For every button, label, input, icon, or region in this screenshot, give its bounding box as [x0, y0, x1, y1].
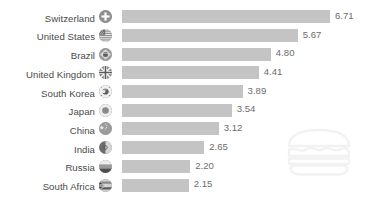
bar: [122, 48, 271, 61]
country-label: Russia: [65, 162, 95, 173]
bar: [122, 179, 189, 192]
bar-row: Japan3.54: [0, 101, 368, 120]
flag-china-icon: [99, 122, 112, 135]
flag-switzerland-icon: [99, 10, 112, 23]
country-label-wrap: South Korea: [0, 83, 98, 101]
country-label: United Kingdom: [26, 69, 95, 80]
bar-row: Russia2.20: [0, 157, 368, 176]
bar-zone: 6.71: [116, 7, 368, 26]
flag-india-icon: [99, 141, 112, 154]
bar-value-label: 3.54: [237, 104, 256, 114]
footnote: [17, 203, 217, 212]
bar-zone: 3.54: [116, 101, 368, 120]
bar-zone: 3.89: [116, 82, 368, 101]
bar: [122, 10, 330, 23]
bar-row: United States5.67: [0, 26, 368, 45]
country-label: South Africa: [43, 181, 95, 192]
country-label: United States: [37, 31, 95, 42]
bar-value-label: 4.80: [276, 48, 295, 58]
country-label-wrap: Switzerland: [0, 8, 98, 26]
bar-row: China3.12: [0, 120, 368, 139]
bar-value-label: 2.65: [209, 142, 228, 152]
bar-zone: 5.67: [116, 26, 368, 45]
bar-zone: 4.41: [116, 64, 368, 83]
country-label: India: [74, 144, 95, 155]
bar-row: Brazil4.80: [0, 45, 368, 64]
flag-united-states-icon: [99, 29, 112, 42]
flag-south-africa-icon: [99, 179, 112, 192]
bar: [122, 141, 204, 154]
bar: [122, 66, 259, 79]
bar-row: United Kingdom4.41: [0, 64, 368, 83]
bar-row: South Korea3.89: [0, 82, 368, 101]
bar: [122, 104, 232, 117]
flag-brazil-icon: [99, 48, 112, 61]
bar-zone: 2.15: [116, 176, 368, 195]
country-label-wrap: South Africa: [0, 176, 98, 194]
bar: [122, 160, 190, 173]
country-label: South Korea: [41, 88, 95, 99]
flag-russia-icon: [99, 160, 112, 173]
bar-row: Switzerland6.71: [0, 7, 368, 26]
bar-value-label: 2.20: [195, 161, 214, 171]
bar-chart: Switzerland6.71United States5.67Brazil4.…: [0, 0, 368, 212]
country-label-wrap: United Kingdom: [0, 64, 98, 82]
bar: [122, 29, 298, 42]
bar-zone: 3.12: [116, 120, 368, 139]
bar-value-label: 4.41: [264, 67, 283, 77]
flag-south-korea-icon: [99, 85, 112, 98]
country-label-wrap: Brazil: [0, 45, 98, 63]
bar: [122, 85, 243, 98]
bar-zone: 4.80: [116, 45, 368, 64]
country-label-wrap: Russia: [0, 157, 98, 175]
bar-value-label: 3.12: [224, 123, 243, 133]
country-label-wrap: Japan: [0, 101, 98, 119]
bar-value-label: 2.15: [194, 179, 213, 189]
flag-united-kingdom-icon: [99, 66, 112, 79]
country-label-wrap: China: [0, 120, 98, 138]
bar-rows: Switzerland6.71United States5.67Brazil4.…: [0, 0, 368, 200]
bar-zone: 2.65: [116, 138, 368, 157]
country-label: China: [70, 125, 95, 136]
bar-zone: 2.20: [116, 157, 368, 176]
bar-value-label: 6.71: [335, 11, 354, 21]
country-label: Brazil: [71, 50, 95, 61]
bar: [122, 122, 219, 135]
bar-row: India2.65: [0, 138, 368, 157]
bar-value-label: 5.67: [303, 30, 322, 40]
bar-value-label: 3.89: [248, 86, 267, 96]
flag-japan-icon: [99, 104, 112, 117]
country-label-wrap: India: [0, 139, 98, 157]
country-label: Japan: [69, 106, 95, 117]
bar-row: South Africa2.15: [0, 176, 368, 195]
country-label: Switzerland: [45, 13, 95, 24]
country-label-wrap: United States: [0, 26, 98, 44]
